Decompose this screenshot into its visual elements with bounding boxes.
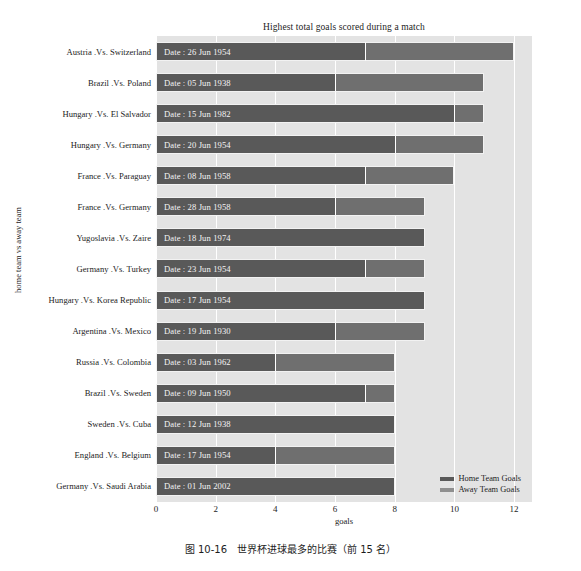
bar-row[interactable]: Date : 15 Jun 1982 <box>156 98 532 129</box>
figure-world-cup-highest-goals: Highest total goals scored during a matc… <box>0 0 581 571</box>
bar-row[interactable]: Date : 18 Jun 1974 <box>156 222 532 253</box>
chart-title: Highest total goals scored during a matc… <box>156 22 532 32</box>
stacked-bar[interactable]: Date : 28 Jun 1958 <box>156 197 425 216</box>
x-tick-label: 2 <box>213 504 218 514</box>
y-tick-label: Sweden .Vs. Cuba <box>88 419 152 429</box>
bar-date-label: Date : 01 Jun 2002 <box>164 481 231 491</box>
bar-segment-away[interactable] <box>365 42 514 61</box>
bar-segment-home[interactable]: Date : 23 Jun 1954 <box>156 259 365 278</box>
stacked-bar[interactable]: Date : 18 Jun 1974 <box>156 228 425 247</box>
stacked-bar[interactable]: Date : 12 Jun 1938 <box>156 415 395 434</box>
bar-segment-home[interactable]: Date : 08 Jun 1958 <box>156 166 365 185</box>
x-tick-label: 0 <box>154 504 159 514</box>
bar-row[interactable]: Date : 03 Jun 1962 <box>156 347 532 378</box>
y-tick-label: England .Vs. Belgium <box>75 450 151 460</box>
bar-segment-home[interactable]: Date : 03 Jun 1962 <box>156 353 275 372</box>
bar-date-label: Date : 17 Jun 1954 <box>164 450 231 460</box>
bar-date-label: Date : 05 Jun 1938 <box>164 78 231 88</box>
figure-caption: 图 10-16 世界杯进球最多的比赛（前 15 名） <box>0 541 581 556</box>
bar-row[interactable]: Date : 23 Jun 1954 <box>156 253 532 284</box>
bar-segment-away[interactable] <box>335 322 425 341</box>
stacked-bar[interactable]: Date : 23 Jun 1954 <box>156 259 425 278</box>
bar-segment-home[interactable]: Date : 26 Jun 1954 <box>156 42 365 61</box>
bar-row[interactable]: Date : 05 Jun 1938 <box>156 67 532 98</box>
bar-segment-home[interactable]: Date : 17 Jun 1954 <box>156 446 275 465</box>
bar-row[interactable]: Date : 20 Jun 1954 <box>156 129 532 160</box>
bar-segment-away[interactable] <box>335 73 484 92</box>
bar-segment-home[interactable]: Date : 28 Jun 1958 <box>156 197 335 216</box>
y-tick-label: Germany .Vs. Turkey <box>77 264 151 274</box>
bar-segment-home[interactable]: Date : 05 Jun 1938 <box>156 73 335 92</box>
legend-label-away: Away Team Goals <box>458 484 519 495</box>
chart-legend: Home Team Goals Away Team Goals <box>436 470 526 498</box>
bar-segment-away[interactable] <box>335 197 425 216</box>
bar-date-label: Date : 23 Jun 1954 <box>164 264 231 274</box>
bar-segment-away[interactable] <box>365 384 395 403</box>
stacked-bar[interactable]: Date : 05 Jun 1938 <box>156 73 484 92</box>
stacked-bar[interactable]: Date : 09 Jun 1950 <box>156 384 395 403</box>
stacked-bar[interactable]: Date : 15 Jun 1982 <box>156 104 484 123</box>
bar-segment-away[interactable] <box>365 259 425 278</box>
bar-date-label: Date : 08 Jun 1958 <box>164 171 231 181</box>
bar-segment-home[interactable]: Date : 01 Jun 2002 <box>156 477 395 496</box>
bar-row[interactable]: Date : 28 Jun 1958 <box>156 191 532 222</box>
bar-date-label: Date : 20 Jun 1954 <box>164 140 231 150</box>
y-tick-label: Brazil .Vs. Sweden <box>85 388 151 398</box>
bar-segment-home[interactable]: Date : 12 Jun 1938 <box>156 415 395 434</box>
plot-area: Date : 26 Jun 1954Date : 05 Jun 1938Date… <box>156 36 532 502</box>
stacked-bar[interactable]: Date : 17 Jun 1954 <box>156 446 395 465</box>
x-tick-label: 10 <box>450 504 459 514</box>
y-axis-tick-labels: Austria .Vs. SwitzerlandBrazil .Vs. Pola… <box>0 36 154 502</box>
x-tick-label: 8 <box>392 504 397 514</box>
bar-row[interactable]: Date : 09 Jun 1950 <box>156 378 532 409</box>
y-tick-label: France .Vs. Germany <box>77 202 151 212</box>
legend-label-home: Home Team Goals <box>458 473 521 484</box>
y-tick-label: Hungary .Vs. Germany <box>71 140 151 150</box>
stacked-bar[interactable]: Date : 17 Jun 1954 <box>156 291 425 310</box>
stacked-bar[interactable]: Date : 20 Jun 1954 <box>156 135 484 154</box>
x-tick-label: 6 <box>333 504 338 514</box>
bar-segment-away[interactable] <box>365 166 455 185</box>
bar-date-label: Date : 15 Jun 1982 <box>164 109 231 119</box>
bar-date-label: Date : 19 Jun 1930 <box>164 326 231 336</box>
legend-item-home: Home Team Goals <box>440 473 521 484</box>
x-tick-label: 4 <box>273 504 278 514</box>
stacked-bar[interactable]: Date : 26 Jun 1954 <box>156 42 514 61</box>
bar-segment-home[interactable]: Date : 17 Jun 1954 <box>156 291 425 310</box>
bar-date-label: Date : 03 Jun 1962 <box>164 357 231 367</box>
bar-segment-home[interactable]: Date : 09 Jun 1950 <box>156 384 365 403</box>
y-tick-label: Germany .Vs. Saudi Arabia <box>56 481 151 491</box>
bar-segment-away[interactable] <box>275 353 394 372</box>
y-tick-label: Russia .Vs. Colombia <box>76 357 151 367</box>
stacked-bar[interactable]: Date : 01 Jun 2002 <box>156 477 395 496</box>
stacked-bar[interactable]: Date : 19 Jun 1930 <box>156 322 425 341</box>
y-tick-label: Hungary .Vs. El Salvador <box>62 109 151 119</box>
legend-item-away: Away Team Goals <box>440 484 521 495</box>
stacked-bar[interactable]: Date : 08 Jun 1958 <box>156 166 454 185</box>
y-tick-label: France .Vs. Paraguay <box>77 171 151 181</box>
bar-segment-home[interactable]: Date : 19 Jun 1930 <box>156 322 335 341</box>
bar-row[interactable]: Date : 19 Jun 1930 <box>156 316 532 347</box>
bar-date-label: Date : 18 Jun 1974 <box>164 233 231 243</box>
x-tick-label: 12 <box>510 504 519 514</box>
x-axis-label: goals <box>156 516 532 526</box>
bar-date-label: Date : 26 Jun 1954 <box>164 47 231 57</box>
y-tick-label: Brazil .Vs. Poland <box>88 78 151 88</box>
bar-row[interactable]: Date : 17 Jun 1954 <box>156 285 532 316</box>
bar-segment-home[interactable]: Date : 18 Jun 1974 <box>156 228 425 247</box>
y-tick-label: Austria .Vs. Switzerland <box>67 47 152 57</box>
bar-segment-away[interactable] <box>454 104 484 123</box>
bar-segment-home[interactable]: Date : 20 Jun 1954 <box>156 135 395 154</box>
bar-date-label: Date : 09 Jun 1950 <box>164 388 231 398</box>
bar-segment-away[interactable] <box>395 135 485 154</box>
y-tick-label: Yugoslavia .Vs. Zaire <box>77 233 151 243</box>
bar-date-label: Date : 17 Jun 1954 <box>164 295 231 305</box>
bar-segment-home[interactable]: Date : 15 Jun 1982 <box>156 104 454 123</box>
bar-segment-away[interactable] <box>275 446 394 465</box>
bar-date-label: Date : 28 Jun 1958 <box>164 202 231 212</box>
bar-row[interactable]: Date : 08 Jun 1958 <box>156 160 532 191</box>
bar-row[interactable]: Date : 26 Jun 1954 <box>156 36 532 67</box>
bar-row[interactable]: Date : 17 Jun 1954 <box>156 440 532 471</box>
bar-row[interactable]: Date : 12 Jun 1938 <box>156 409 532 440</box>
stacked-bar[interactable]: Date : 03 Jun 1962 <box>156 353 395 372</box>
